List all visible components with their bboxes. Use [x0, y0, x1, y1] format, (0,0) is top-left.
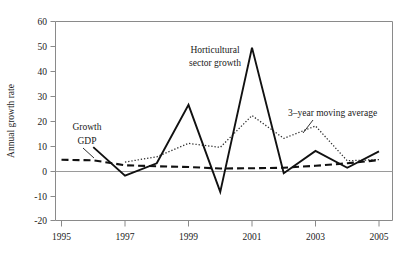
chart-svg: 60 50 40 30 20 10 0 -10 -20 1995 1997 19…: [0, 0, 405, 254]
y-tick-label-30: 30: [38, 92, 48, 102]
annotation-horticultural-sector-growth: Horticultural sector growth: [189, 45, 241, 68]
y-tick-label-50: 50: [38, 42, 48, 52]
annotation-growth-gdp: Growth GDP: [72, 122, 101, 158]
annotation-gdp-line1: Growth: [72, 122, 101, 132]
annotation-horticultural-line2: sector growth: [189, 58, 241, 68]
series-three-year-moving-average: [125, 116, 379, 163]
y-tick-label-10: 10: [38, 142, 48, 152]
data-series-group: [62, 48, 380, 192]
annotation-gdp-line2: GDP: [77, 136, 96, 146]
annotation-horticultural-line1: Horticultural: [190, 45, 239, 55]
annotation-moving-average-label: 3–year moving average: [288, 108, 377, 118]
y-tick-label-60: 60: [38, 17, 48, 27]
annotation-gdp-leader-line: [83, 148, 94, 158]
y-axis-ticks: [51, 22, 56, 221]
y-tick-label-minus20: -20: [34, 216, 47, 226]
chart-figure: 60 50 40 30 20 10 0 -10 -20 1995 1997 19…: [0, 0, 405, 254]
x-axis-tick-labels: 1995 1997 1999 2001 2003 2005: [52, 232, 389, 242]
y-axis-tick-labels: 60 50 40 30 20 10 0 -10 -20: [34, 17, 47, 226]
y-tick-label-minus10: -10: [34, 192, 47, 202]
y-tick-label-20: 20: [38, 117, 48, 127]
annotation-three-year-moving-average: 3–year moving average: [288, 108, 377, 133]
x-tick-label-1999: 1999: [179, 232, 198, 242]
x-tick-label-1997: 1997: [116, 232, 135, 242]
y-tick-label-0: 0: [42, 167, 47, 177]
x-tick-label-2001: 2001: [243, 232, 262, 242]
y-axis-title: Annual growth rate: [6, 84, 16, 158]
x-axis-ticks: [62, 221, 380, 227]
x-tick-label-2003: 2003: [306, 232, 325, 242]
annotation-moving-average-leader-line: [303, 120, 313, 133]
x-tick-label-2005: 2005: [370, 232, 389, 242]
x-tick-label-1995: 1995: [52, 232, 71, 242]
series-horticultural-sector-growth: [93, 48, 379, 192]
y-tick-label-40: 40: [38, 67, 48, 77]
